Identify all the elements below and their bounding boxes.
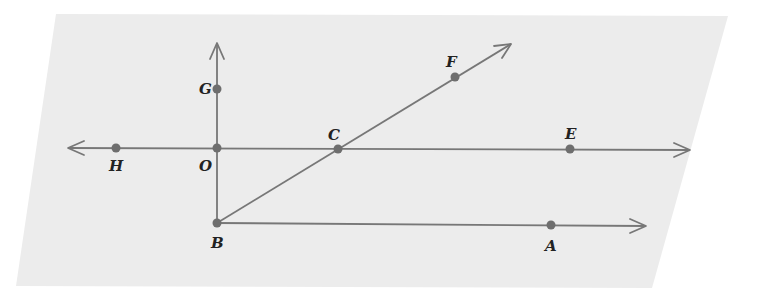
geometry-diagram: G O H C E F B A (0, 0, 768, 305)
plane-parallelogram (16, 14, 728, 288)
point-a (547, 221, 556, 230)
point-o (213, 144, 222, 153)
label-b: B (210, 234, 224, 252)
point-e (566, 145, 575, 154)
label-h: H (108, 157, 124, 175)
label-f: F (445, 53, 458, 71)
point-b (213, 219, 222, 228)
label-g: G (199, 80, 212, 98)
label-o: O (199, 157, 212, 175)
point-f (451, 73, 460, 82)
label-a: A (543, 237, 557, 255)
label-e: E (564, 125, 577, 143)
point-h (112, 144, 121, 153)
point-g (213, 85, 222, 94)
label-c: C (328, 126, 340, 144)
point-c (334, 145, 343, 154)
